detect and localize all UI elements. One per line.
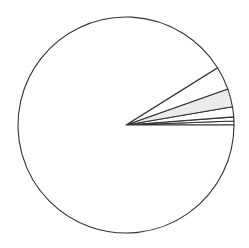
pie-slices — [18, 17, 234, 233]
pie-chart-canvas — [0, 0, 249, 248]
pie-slice-6 — [18, 17, 234, 233]
